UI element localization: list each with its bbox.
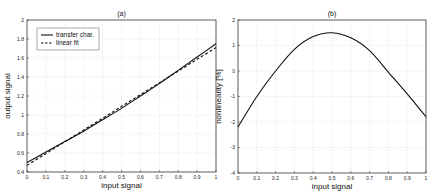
y-tick-label: 1 (232, 42, 235, 48)
figure: 00.10.20.30.40.50.60.70.80.910.40.60.811… (0, 0, 436, 194)
legend-entry-label: transfer char. (56, 31, 94, 38)
x-tick-label: 0.8 (385, 175, 392, 181)
x-tick-label: 1 (215, 174, 218, 180)
y-axis-label: output signal (3, 73, 12, 119)
x-tick-label: 1 (425, 175, 428, 181)
x-tick-label: 0.3 (80, 174, 87, 180)
y-tick-label: 1 (21, 112, 24, 118)
x-tick-label: 0.7 (366, 175, 373, 181)
x-tick-label: 0.6 (347, 175, 354, 181)
y-tick-label: -4 (231, 170, 236, 176)
x-tick-label: 0 (26, 174, 29, 180)
plot-a-transfer-characteristic: 00.10.20.30.40.50.60.70.80.910.40.60.811… (3, 10, 218, 190)
y-tick-label: 2 (21, 17, 24, 23)
y-tick-label: 0 (232, 68, 235, 74)
y-axis-label: nonlinearity [%] (214, 69, 223, 124)
x-tick-label: 0.4 (99, 174, 106, 180)
chart-title: (b) (328, 10, 337, 18)
y-tick-label: -1 (231, 93, 236, 99)
x-tick-label: 0.9 (194, 174, 201, 180)
x-tick-label: 0.5 (118, 174, 125, 180)
x-tick-label: 0.1 (253, 175, 260, 181)
x-axis-label: input signal (101, 181, 142, 190)
y-tick-label: 2 (232, 17, 235, 23)
y-tick-label: 0.8 (17, 131, 24, 137)
y-tick-label: 1.8 (17, 36, 24, 42)
x-tick-label: 0.2 (61, 174, 68, 180)
y-tick-label: 0.6 (17, 150, 24, 156)
y-tick-label: 0.4 (17, 169, 24, 175)
x-tick-label: 0.3 (291, 175, 298, 181)
x-tick-label: 0.2 (272, 175, 279, 181)
y-tick-label: 1.2 (17, 93, 24, 99)
x-tick-label: 0.7 (156, 174, 163, 180)
x-tick-label: 0.8 (175, 174, 182, 180)
legend: transfer char.linear fit (37, 28, 99, 50)
y-tick-label: 1.6 (17, 55, 24, 61)
x-tick-label: 0.5 (329, 175, 336, 181)
y-tick-label: -3 (231, 144, 236, 150)
x-tick-label: 0 (237, 175, 240, 181)
legend-entry-label: linear fit (56, 39, 79, 46)
chart-title: (a) (117, 10, 126, 18)
x-tick-label: 0.9 (404, 175, 411, 181)
y-tick-label: 1.4 (17, 74, 24, 80)
x-tick-label: 0.1 (42, 174, 49, 180)
x-tick-label: 0.4 (310, 175, 317, 181)
x-axis-label: input signal (312, 182, 353, 191)
y-tick-label: -2 (231, 119, 236, 125)
plot-b-nonlinearity: 00.10.20.30.40.50.60.70.80.91-4-3-2-1012… (214, 10, 428, 191)
x-tick-label: 0.6 (137, 174, 144, 180)
